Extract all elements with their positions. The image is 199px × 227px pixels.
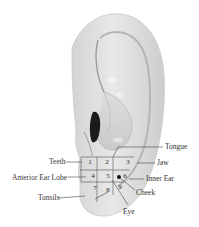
zone-number-3: 3 xyxy=(124,159,132,166)
label-anterior-ear-lobe: Anterior Ear Lobe xyxy=(12,174,67,182)
zone-number-4: 4 xyxy=(89,173,97,180)
label-cheek: Cheek xyxy=(136,189,155,197)
zone-number-9: 9 xyxy=(116,184,124,191)
label-teeth: Teeth xyxy=(49,158,66,166)
zone-number-7: 7 xyxy=(91,185,99,192)
zone-number-2: 2 xyxy=(103,159,111,166)
label-eye: Eye xyxy=(123,208,135,216)
ear-diagram: 1 2 3 4 5 6 7 8 9 Teeth Anterior Ear Lob… xyxy=(0,0,199,227)
label-jaw: Jaw xyxy=(157,159,169,167)
label-inner-ear: Inner Ear xyxy=(146,175,174,183)
zone-number-5: 5 xyxy=(104,173,112,180)
ear-illustration xyxy=(0,0,199,227)
zone-number-1: 1 xyxy=(86,159,94,166)
label-tonsils: Tonsils xyxy=(38,194,60,202)
zone-number-8: 8 xyxy=(104,187,112,194)
zone-number-6: 6 xyxy=(121,173,129,180)
label-tongue: Tongue xyxy=(165,143,187,151)
